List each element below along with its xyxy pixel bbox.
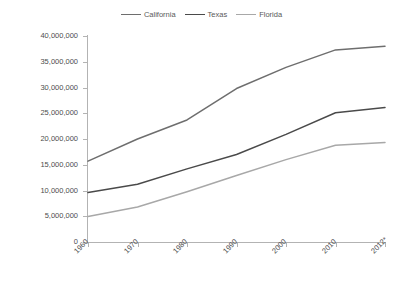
legend-label: California	[144, 10, 176, 19]
series-line-texas	[88, 108, 385, 193]
series-lines	[88, 36, 385, 242]
y-axis-label: 20,000,000	[0, 135, 78, 143]
legend-item-california[interactable]: California	[121, 10, 176, 19]
y-axis-label: 5,000,000	[0, 212, 78, 220]
legend-label: Florida	[259, 10, 282, 19]
y-axis-label: 15,000,000	[0, 161, 78, 169]
y-axis-tick	[83, 113, 87, 114]
y-axis-label: 35,000,000	[0, 58, 78, 66]
legend-swatch-icon	[236, 14, 256, 15]
legend-swatch-icon	[121, 14, 141, 15]
y-axis-tick	[83, 191, 87, 192]
y-axis-tick	[83, 88, 87, 89]
series-line-california	[88, 46, 385, 161]
population-line-chart: CaliforniaTexasFlorida 05,000,00010,000,…	[0, 0, 403, 293]
legend-item-florida[interactable]: Florida	[236, 10, 282, 19]
y-axis-tick	[83, 62, 87, 63]
y-axis-tick	[83, 139, 87, 140]
legend-label: Texas	[208, 10, 228, 19]
y-axis-label: 40,000,000	[0, 32, 78, 40]
legend-swatch-icon	[185, 14, 205, 15]
legend-item-texas[interactable]: Texas	[185, 10, 228, 19]
y-axis-label: 0	[0, 238, 78, 246]
y-axis-tick	[83, 216, 87, 217]
y-axis-label: 25,000,000	[0, 109, 78, 117]
y-axis-tick	[83, 165, 87, 166]
plot-area	[88, 36, 385, 242]
chart-legend: CaliforniaTexasFlorida	[0, 6, 403, 22]
y-axis-tick	[83, 36, 87, 37]
y-axis-label: 10,000,000	[0, 187, 78, 195]
y-axis-label: 30,000,000	[0, 84, 78, 92]
